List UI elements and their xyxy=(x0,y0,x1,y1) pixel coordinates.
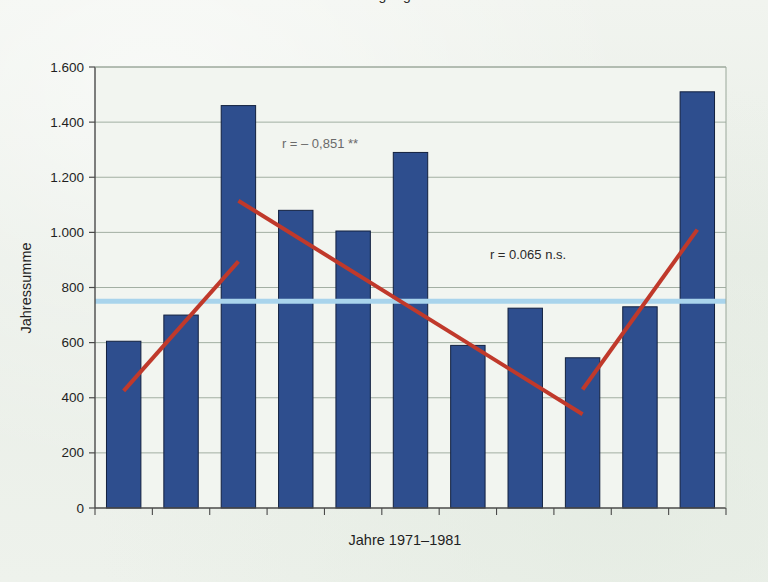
bar xyxy=(106,341,140,508)
bar-rect-1979 xyxy=(565,358,599,508)
y-axis-tick-label: 1.000 xyxy=(50,225,84,240)
annotation-correlation-falling: r = – 0,851 ** xyxy=(282,136,358,151)
bar-rect-1976 xyxy=(393,152,427,508)
annotation-correlation-overall: r = 0.065 n.s. xyxy=(490,247,566,262)
bar-chart: 02004006008001.0001.2001.4001.600 r = – … xyxy=(0,0,768,582)
bar xyxy=(279,210,313,508)
bar-rect-1974 xyxy=(279,210,313,508)
bar-rect-1977 xyxy=(451,345,485,508)
bar xyxy=(565,358,599,508)
chart-container: 02004006008001.0001.2001.4001.600 r = – … xyxy=(0,0,768,582)
bar-rect-1971 xyxy=(106,341,140,508)
bar xyxy=(164,315,198,508)
bar-rect-1972 xyxy=(164,315,198,508)
bar xyxy=(451,345,485,508)
bar xyxy=(508,308,542,508)
y-axis-tick-label: 0 xyxy=(76,501,84,516)
y-axis-ticks: 02004006008001.0001.2001.4001.600 xyxy=(50,60,95,516)
bar xyxy=(623,307,657,508)
y-axis-tick-label: 400 xyxy=(61,390,84,405)
bar-rect-1980 xyxy=(623,307,657,508)
y-axis-tick-label: 200 xyxy=(61,445,84,460)
y-axis-tick-label: 1.200 xyxy=(50,170,84,185)
y-axis-tick-label: 800 xyxy=(61,280,84,295)
bar xyxy=(393,152,427,508)
y-axis-tick-label: 1.400 xyxy=(50,115,84,130)
bar xyxy=(221,106,255,508)
y-axis-title: Jahressumme xyxy=(18,242,34,333)
x-axis-title: Jahre 1971–1981 xyxy=(349,532,462,548)
y-axis-tick-label: 1.600 xyxy=(50,60,84,75)
y-axis-tick-label: 600 xyxy=(61,335,84,350)
x-axis-ticks xyxy=(95,508,726,515)
bar-rect-1978 xyxy=(508,308,542,508)
bar-rect-1973 xyxy=(221,106,255,508)
